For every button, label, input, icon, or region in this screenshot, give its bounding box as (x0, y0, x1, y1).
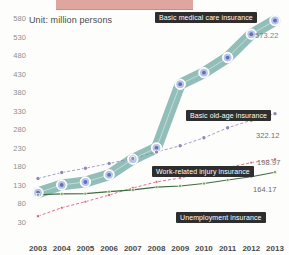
unemployment-marker (274, 171, 277, 174)
medical-marker-core (155, 146, 159, 150)
medical-marker-core (178, 82, 182, 86)
unemployment-marker (203, 182, 206, 185)
x-axis-tick: 2007 (124, 244, 142, 253)
y-axis-tick: 180 (0, 162, 26, 171)
x-axis-tick: 2003 (29, 244, 47, 253)
medical-marker-core (60, 183, 64, 187)
oldage-marker (131, 157, 134, 160)
oldage-marker (84, 167, 87, 170)
end-value-injury: 198.97 (257, 158, 281, 167)
y-axis-tick: 430 (0, 69, 26, 78)
injury-marker (250, 161, 253, 164)
x-axis-tick: 2008 (148, 244, 166, 253)
y-axis: 5805304804303803302802301801308030 (0, 0, 26, 255)
injury-marker (37, 215, 40, 218)
unemployment-marker (226, 179, 229, 182)
x-axis-tick: 2011 (219, 244, 236, 253)
x-axis-tick: 2013 (266, 244, 284, 253)
oldage-marker (273, 112, 276, 115)
injury-marker (155, 181, 158, 184)
injury-marker (179, 177, 182, 180)
unemployment-marker (155, 186, 158, 189)
x-axis-tick: 2012 (242, 244, 260, 253)
oldage-marker (36, 177, 39, 180)
unemployment-marker (37, 193, 40, 196)
unemployment-marker (84, 192, 87, 195)
oldage-marker (179, 144, 182, 147)
medical-marker-core (273, 19, 277, 23)
y-axis-tick: 480 (0, 51, 26, 60)
y-axis-tick: 30 (0, 218, 26, 227)
y-axis-tick: 130 (0, 180, 26, 189)
y-axis-tick: 230 (0, 143, 26, 152)
x-axis-tick: 2009 (171, 244, 189, 253)
unemployment-marker (131, 189, 134, 192)
unemployment-marker (108, 190, 111, 193)
y-axis-tick: 280 (0, 125, 26, 134)
y-axis-tick: 380 (0, 88, 26, 97)
y-axis-tick: 580 (0, 14, 26, 23)
medical-marker-core (84, 180, 88, 184)
medical-marker-core (202, 71, 206, 75)
oldage-marker (155, 150, 158, 153)
injury-marker (84, 200, 87, 203)
callout-medical: Basic medical care insurance (155, 12, 257, 23)
medical-marker-core (107, 173, 111, 177)
callout-unemployment: Unemployment insurance (176, 212, 266, 223)
x-axis-tick: 2004 (53, 244, 71, 253)
oldage-marker (226, 126, 229, 129)
injury-marker (108, 194, 111, 197)
y-axis-tick: 80 (0, 199, 26, 208)
line-chart: 5805304804303803302802301801308030 Basic… (0, 0, 289, 255)
callout-injury: Work-related injury insurance (152, 166, 254, 177)
end-value-unemployment: 164.17 (253, 185, 277, 194)
chart-page: Unit: million persons 580530480430380330… (0, 0, 289, 255)
x-axis-tick: 2010 (195, 244, 213, 253)
plot-area (30, 10, 289, 240)
end-value-oldage: 322.12 (256, 131, 280, 140)
chart-svg (30, 10, 289, 240)
medical-marker-core (226, 56, 230, 60)
x-axis-tick: 2005 (76, 244, 94, 253)
end-value-medical: 573.22 (255, 31, 279, 40)
oldage-marker (60, 171, 63, 174)
callout-oldage: Basic old-age insurance (186, 110, 271, 121)
y-axis-tick: 530 (0, 32, 26, 41)
y-axis-tick: 330 (0, 106, 26, 115)
injury-marker (60, 206, 63, 209)
oldage-marker (107, 162, 110, 165)
medical-marker-core (249, 32, 253, 36)
x-axis-tick: 2006 (100, 244, 118, 253)
oldage-marker (202, 136, 205, 139)
unemployment-marker (179, 185, 182, 188)
unemployment-marker (60, 192, 63, 195)
